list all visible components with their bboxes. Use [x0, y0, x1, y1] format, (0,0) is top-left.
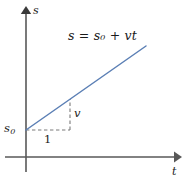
s-axis: [21, 6, 31, 172]
t-axis-arrow-icon: [174, 152, 182, 163]
intercept-label: s0: [4, 123, 15, 136]
motion-line: [26, 46, 146, 130]
rise-label: v: [74, 108, 81, 120]
intercept-subscript: 0: [10, 127, 15, 136]
equation-label: s = s₀ + vt: [68, 30, 137, 43]
t-axis-label: t: [172, 166, 176, 177]
s-axis-label: s: [33, 5, 39, 16]
position-time-graph: s t s = s₀ + vt s0 v 1: [0, 0, 186, 183]
run-label: 1: [44, 134, 51, 146]
s-axis-arrow-icon: [21, 6, 31, 14]
t-axis: [5, 152, 182, 163]
